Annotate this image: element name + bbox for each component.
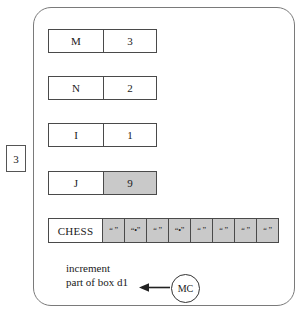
variable-value-cell: 3 (103, 29, 157, 53)
variable-name-cell: I (48, 123, 104, 147)
array-name-label: CHESS (58, 225, 94, 237)
array-cell-value: “•” (131, 227, 140, 235)
array-cell-value: “ ” (109, 227, 118, 235)
array-cell: “•” (125, 218, 147, 243)
variable-value-label: 1 (127, 130, 133, 141)
array-cell-value: “•” (175, 227, 184, 235)
array-cell: “ ” (257, 218, 279, 243)
array-cell: “ ” (147, 218, 169, 243)
variable-row-m: M 3 (48, 29, 157, 53)
array-row-chess: CHESS “ ” “•” “ ” “•” “ ” “ ” “ ” “ ” (48, 218, 279, 243)
variable-value-label: 3 (127, 36, 133, 47)
variable-name-cell: J (48, 171, 104, 195)
array-cell-value: “ ” (153, 227, 162, 235)
variable-value-cell-highlighted: 9 (103, 171, 157, 195)
array-name-cell: CHESS (48, 218, 103, 243)
variable-row-i: I 1 (48, 123, 157, 147)
variable-name-label: J (74, 178, 78, 189)
external-value-box-label: 3 (13, 153, 19, 165)
variable-value-label: 9 (127, 178, 133, 189)
variable-row-n: N 2 (48, 76, 157, 100)
array-cell: “ ” (103, 218, 125, 243)
array-cell-value: “ ” (263, 227, 272, 235)
variable-value-cell: 1 (103, 123, 157, 147)
variable-name-cell: M (48, 29, 104, 53)
array-cell: “•” (169, 218, 191, 243)
mc-marker: MC (171, 274, 200, 303)
annotation-line-1: increment (66, 261, 166, 275)
variable-row-j: J 9 (48, 171, 157, 195)
left-arrow-icon (139, 283, 171, 292)
array-cell-value: “ ” (219, 227, 228, 235)
external-value-box: 3 (6, 145, 26, 172)
array-cell: “ ” (213, 218, 235, 243)
mc-marker-label: MC (178, 283, 194, 294)
array-cell-value: “ ” (241, 227, 250, 235)
variable-name-label: I (74, 130, 78, 141)
variable-name-label: M (71, 36, 81, 47)
variable-value-cell: 2 (103, 76, 157, 100)
variable-value-label: 2 (127, 83, 133, 94)
array-cell: “ ” (235, 218, 257, 243)
variable-name-label: N (72, 83, 80, 94)
array-cell: “ ” (191, 218, 213, 243)
array-cell-value: “ ” (197, 227, 206, 235)
variable-name-cell: N (48, 76, 104, 100)
